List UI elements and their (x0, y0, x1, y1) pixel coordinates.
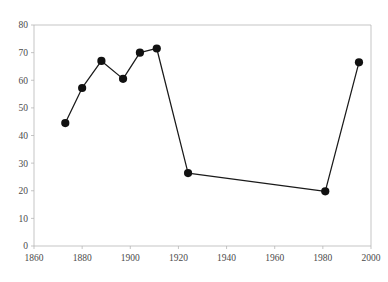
x-tick-label: 1940 (217, 253, 236, 263)
y-tick-label: 60 (19, 76, 29, 86)
series-polyline (65, 48, 359, 191)
data-point-marker (78, 84, 86, 92)
axis-frame-top-right (34, 25, 371, 246)
data-point-marker (119, 75, 127, 83)
x-tick-label: 2000 (362, 253, 381, 263)
data-point-marker (136, 49, 144, 57)
y-tick-label: 80 (19, 20, 29, 30)
data-point-marker (184, 169, 192, 177)
chart-figure: 01020304050607080 1860188019001920194019… (0, 0, 388, 282)
data-point-marker (97, 57, 105, 65)
x-tick-label: 1900 (121, 253, 140, 263)
data-point-marker (321, 187, 329, 195)
line-chart-plot: 01020304050607080 1860188019001920194019… (0, 0, 388, 282)
y-tick-label: 70 (19, 48, 29, 58)
x-tick-label: 1860 (25, 253, 44, 263)
x-axis-ticks (34, 246, 371, 249)
y-tick-label: 20 (19, 186, 29, 196)
x-tick-label: 1880 (73, 253, 92, 263)
y-tick-label: 30 (19, 159, 29, 169)
y-tick-label: 50 (19, 103, 29, 113)
y-tick-label: 10 (19, 214, 29, 224)
data-point-marker (153, 44, 161, 52)
y-axis-tick-labels: 01020304050607080 (19, 20, 29, 251)
y-tick-label: 40 (19, 131, 29, 141)
x-tick-label: 1920 (169, 253, 188, 263)
series-line (65, 48, 359, 191)
series-markers (61, 44, 363, 195)
axes (34, 25, 371, 246)
y-tick-label: 0 (23, 241, 28, 251)
data-point-marker (61, 119, 69, 127)
x-tick-label: 1980 (313, 253, 332, 263)
x-tick-label: 1960 (265, 253, 284, 263)
x-axis-tick-labels: 18601880190019201940196019802000 (25, 253, 381, 263)
data-point-marker (355, 58, 363, 66)
axis-spines (34, 25, 371, 246)
y-axis-ticks (31, 25, 34, 246)
